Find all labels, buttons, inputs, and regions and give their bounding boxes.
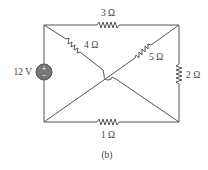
- figure-caption: (b): [101, 150, 112, 161]
- voltage-source: + −: [36, 64, 52, 80]
- minus-sign: −: [42, 72, 46, 79]
- resistor-1-icon: [97, 119, 119, 125]
- resistor-4-icon: [66, 38, 80, 53]
- plus-sign: +: [42, 65, 46, 72]
- voltage-source-label: 12 V: [13, 67, 32, 77]
- resistor-3-label: 3 Ω: [101, 8, 115, 18]
- resistor-2-icon: [176, 64, 182, 84]
- diag-bl-wire-b: [151, 25, 179, 45]
- resistor-5-label: 5 Ω: [149, 52, 163, 62]
- resistor-1-label: 1 Ω: [101, 130, 115, 140]
- diag-tl-wire-b: [80, 52, 104, 75]
- diag-bl-wire-a: [44, 58, 135, 122]
- diag-tl-wire-a: [44, 25, 66, 39]
- diag-tl-wire-c: [112, 77, 179, 122]
- resistor-4-label: 4 Ω: [84, 40, 98, 50]
- resistor-2-label: 2 Ω: [186, 70, 200, 80]
- circuit-diagram: + − 12 V 3 Ω 2 Ω 1 Ω 4 Ω 5 Ω (b): [0, 0, 208, 170]
- resistor-3-icon: [97, 22, 119, 28]
